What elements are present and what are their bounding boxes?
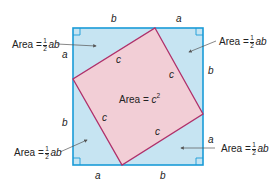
center-prefix: Area = [119,94,152,105]
frac-den: 2 [43,46,47,53]
area-suffix: ab [255,37,266,47]
center-area-label: Area = c2 [119,95,160,105]
label-top-right-a: a [176,14,182,24]
area-suffix: ab [50,148,61,158]
label-right-bottom-a: a [208,135,214,145]
frac-den: 2 [252,150,256,157]
fraction: 12 [43,38,48,52]
area-suffix: ab [48,40,59,50]
area-prefix: Area = [221,144,251,154]
frac-den: 2 [45,154,49,161]
area-prefix: Area = [12,40,42,50]
label-bottom-left-a: a [95,171,101,181]
fraction: 12 [252,142,257,156]
fraction: 12 [250,35,255,49]
label-hyp-right: c [169,70,174,80]
label-bottom-right-b: b [160,171,166,181]
area-label-bottom-right: Area = 12 ab [221,142,269,156]
label-right-top-b: b [208,66,214,76]
area-suffix: ab [257,144,268,154]
label-hyp-top: c [116,55,121,65]
center-var: c [152,94,157,105]
label-left-bottom-b: b [62,118,68,128]
center-exp: 2 [157,92,161,99]
area-label-top-right: Area = 12 ab [219,35,267,49]
area-label-top-left: Area = 12 ab [12,38,60,52]
label-top-left-b: b [111,14,117,24]
label-hyp-bottom: c [155,127,160,137]
frac-den: 2 [250,43,254,50]
label-left-top-a: a [62,50,68,60]
area-label-bottom-left: Area = 12 ab [14,146,62,160]
fraction: 12 [45,146,50,160]
area-prefix: Area = [219,37,249,47]
area-prefix: Area = [14,148,44,158]
label-hyp-left: c [102,113,107,123]
